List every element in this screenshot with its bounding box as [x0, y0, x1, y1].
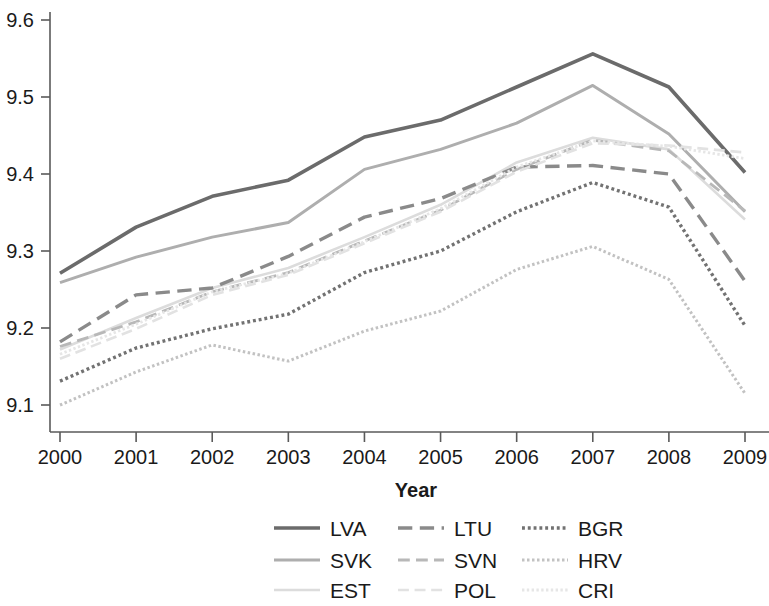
x-axis-title: Year	[395, 479, 437, 501]
x-tick-label: 2001	[114, 446, 159, 468]
y-tick-label: 9.6	[6, 9, 34, 31]
legend-label-svk: SVK	[330, 549, 372, 572]
series-line-ltu	[60, 166, 745, 342]
legend-label-svn: SVN	[454, 549, 497, 572]
legend-label-pol: POL	[454, 579, 496, 602]
legend-label-ltu: LTU	[454, 517, 492, 540]
y-tick-label: 9.4	[6, 163, 34, 185]
x-tick-label: 2008	[647, 446, 692, 468]
legend-label-cri: CRI	[578, 579, 614, 602]
legend-label-bgr: BGR	[578, 517, 624, 540]
legend-label-lva: LVA	[330, 517, 367, 540]
x-tick-label: 2007	[571, 446, 616, 468]
x-tick-label: 2002	[190, 446, 235, 468]
x-tick-label: 2005	[418, 446, 463, 468]
line-chart-figure: 9.19.29.39.49.59.6 200020012002200320042…	[0, 0, 769, 606]
chart-legend: LVALTUBGRSVKSVNHRVESTPOLCRI	[274, 517, 624, 602]
y-tick-label: 9.1	[6, 394, 34, 416]
y-tick-label: 9.5	[6, 86, 34, 108]
x-tick-label: 2000	[38, 446, 83, 468]
series-line-svk	[60, 85, 745, 282]
x-tick-label: 2004	[342, 446, 387, 468]
series-line-hrv	[60, 246, 745, 405]
series-line-lva	[60, 54, 745, 273]
data-series-group	[60, 54, 745, 405]
x-axis-tick-group: 2000200120022003200420052006200720082009	[38, 432, 768, 468]
x-tick-label: 2009	[723, 446, 768, 468]
legend-label-est: EST	[330, 579, 371, 602]
series-line-bgr	[60, 182, 745, 381]
x-tick-label: 2003	[266, 446, 311, 468]
chart-canvas: 9.19.29.39.49.59.6 200020012002200320042…	[0, 0, 769, 606]
x-tick-label: 2006	[494, 446, 539, 468]
y-tick-label: 9.3	[6, 240, 34, 262]
y-tick-label: 9.2	[6, 317, 34, 339]
y-axis-tick-group: 9.19.29.39.49.59.6	[6, 9, 50, 416]
legend-label-hrv: HRV	[578, 549, 622, 572]
